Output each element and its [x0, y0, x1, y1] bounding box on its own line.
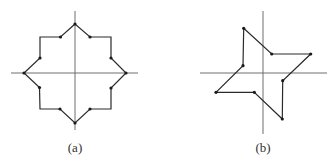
vertex-dot: [38, 56, 41, 59]
vertex-dot: [242, 27, 245, 30]
vertex-dot: [109, 86, 112, 89]
vertex-dot: [253, 91, 256, 94]
figure-b-label: (b): [255, 140, 270, 156]
figure-a-octagram: [11, 11, 138, 130]
vertex-dot: [241, 64, 244, 67]
diagram-canvas: [0, 0, 335, 164]
figure-a-label: (a): [68, 140, 82, 156]
figure-b-pinwheel: [200, 11, 327, 134]
vertex-dot: [309, 52, 312, 55]
vertex-dot: [59, 35, 62, 38]
vertex-dot: [109, 56, 112, 59]
vertex-dot: [73, 121, 76, 124]
vertex-dot: [73, 22, 76, 25]
vertex-dot: [38, 86, 41, 89]
vertex-dot: [214, 91, 217, 94]
vertex-dot: [22, 71, 25, 74]
vertex-dot: [58, 107, 61, 110]
vertex-dot: [270, 52, 273, 55]
vertex-dot: [281, 117, 284, 120]
vertex-dot: [88, 107, 91, 110]
vertex-dot: [124, 71, 127, 74]
vertex-dot: [281, 79, 284, 82]
vertex-dot: [88, 35, 91, 38]
